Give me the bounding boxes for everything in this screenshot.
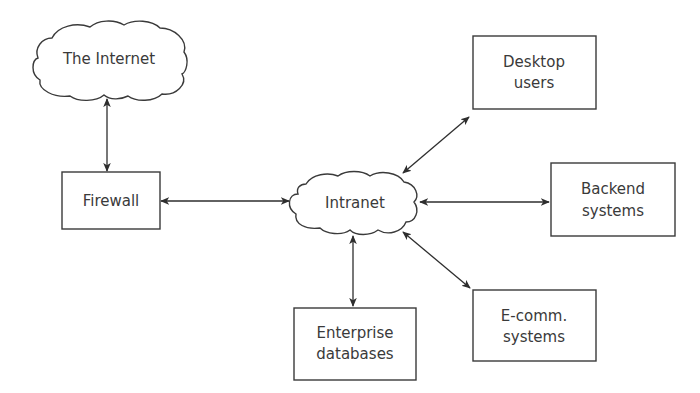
node-desktop-users: Desktop users	[473, 36, 596, 109]
node-internet: The Internet	[33, 21, 187, 100]
node-label-line-2: systems	[503, 328, 565, 346]
node-label-line-2: databases	[316, 345, 394, 363]
node-label-line-2: users	[514, 74, 555, 92]
network-diagram: The Internet Firewall Intranet Desktop u…	[0, 0, 700, 393]
node-label-line-1: E-comm.	[501, 307, 567, 325]
node-label: Firewall	[83, 192, 140, 210]
node-intranet: Intranet	[289, 172, 416, 235]
node-enterprise-databases: Enterprise databases	[294, 308, 416, 380]
box-shape	[551, 163, 675, 236]
node-label-line-1: Backend	[581, 180, 645, 198]
box-shape	[294, 308, 416, 380]
box-shape	[473, 36, 596, 109]
node-firewall: Firewall	[62, 172, 160, 229]
node-label-line-2: systems	[582, 202, 644, 220]
node-label: The Internet	[62, 50, 155, 68]
edge-intranet-ecomm	[403, 232, 470, 288]
edge-intranet-desktop	[403, 117, 469, 173]
node-label-line-1: Enterprise	[316, 324, 393, 342]
node-ecomm-systems: E-comm. systems	[473, 290, 596, 361]
box-shape	[473, 290, 596, 361]
node-label: Intranet	[325, 194, 385, 212]
node-label-line-1: Desktop	[503, 53, 565, 71]
node-backend-systems: Backend systems	[551, 163, 675, 236]
